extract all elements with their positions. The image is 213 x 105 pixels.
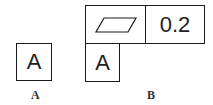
datum-box-b: A: [85, 43, 120, 82]
symbol-cell: [85, 5, 146, 44]
flatness-icon: [94, 17, 138, 33]
datum-letter: A: [95, 50, 110, 76]
caption-b: B: [147, 88, 155, 103]
tolerance-value: 0.2: [160, 12, 191, 38]
datum-letter: A: [27, 49, 42, 75]
datum-box-a: A: [16, 43, 52, 81]
caption-a: A: [31, 88, 40, 103]
tolerance-cell: 0.2: [145, 5, 205, 44]
